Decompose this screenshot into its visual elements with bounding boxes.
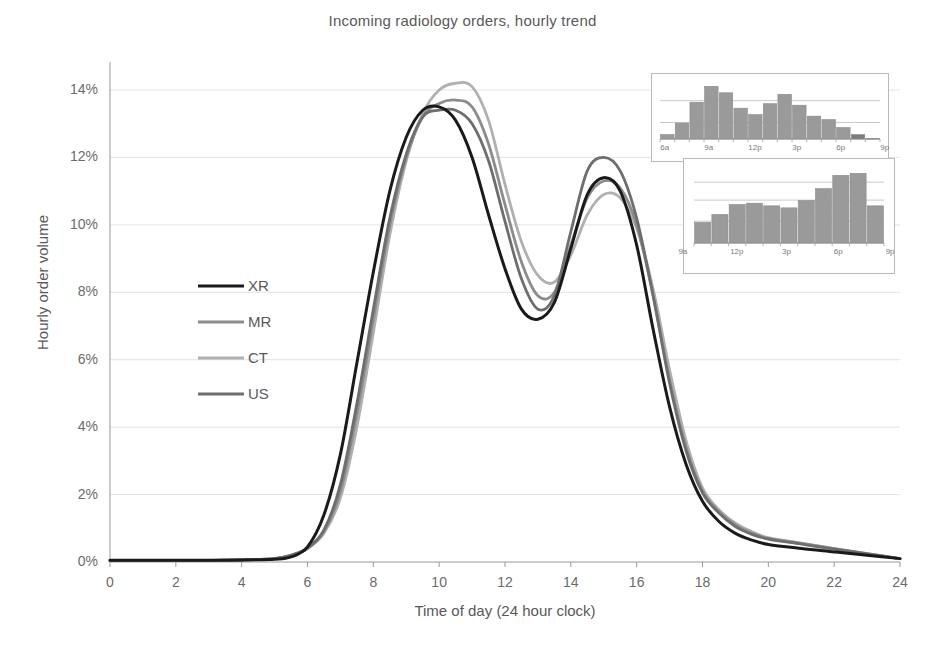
inset-bar <box>705 86 718 139</box>
inset-bar <box>749 115 762 139</box>
inset-morning-bars: 6a9a12p3p6p9p <box>651 73 889 162</box>
x-tick-label: 20 <box>748 574 788 590</box>
inset-bar <box>781 208 797 243</box>
legend-label-us: US <box>248 385 269 402</box>
y-tick-label: 10% <box>32 216 98 232</box>
inset-bar <box>719 93 732 139</box>
inset-bar <box>729 205 745 243</box>
inset-bar <box>695 222 711 243</box>
legend-label-xr: XR <box>248 277 269 294</box>
inset-bar <box>734 108 747 139</box>
inset-bar <box>866 139 879 140</box>
x-tick-label: 22 <box>814 574 854 590</box>
legend-label-mr: MR <box>248 313 271 330</box>
inset-tick-label: 6p <box>836 143 845 152</box>
inset-afternoon-bars: 9a12p3p6p9p <box>683 158 895 274</box>
x-tick-label: 10 <box>419 574 459 590</box>
inset-bar <box>690 102 703 139</box>
inset-bar <box>833 175 849 243</box>
inset-tick-label: 6a <box>660 143 669 152</box>
inset-bar <box>816 189 832 243</box>
inset-tick-label: 3p <box>792 143 801 152</box>
inset-morning-bars-plot <box>652 74 888 161</box>
x-tick-label: 16 <box>617 574 657 590</box>
y-tick-label: 2% <box>32 486 98 502</box>
x-tick-label: 6 <box>288 574 328 590</box>
inset-tick-label: 12p <box>748 143 761 152</box>
inset-bar <box>867 206 883 243</box>
y-tick-label: 14% <box>32 81 98 97</box>
x-tick-label: 2 <box>156 574 196 590</box>
y-tick-label: 0% <box>32 553 98 569</box>
x-tick-label: 18 <box>683 574 723 590</box>
y-tick-label: 8% <box>32 283 98 299</box>
inset-bar <box>822 120 835 139</box>
inset-tick-label: 3p <box>782 247 791 256</box>
inset-bar <box>764 206 780 243</box>
x-tick-label: 24 <box>880 574 920 590</box>
x-tick-label: 4 <box>222 574 262 590</box>
inset-tick-label: 9a <box>704 143 713 152</box>
inset-tick-label: 9p <box>880 143 889 152</box>
inset-tick-label: 9a <box>678 247 687 256</box>
inset-bar <box>763 104 776 139</box>
inset-tick-label: 12p <box>730 247 743 256</box>
x-tick-label: 14 <box>551 574 591 590</box>
inset-bar <box>850 173 866 243</box>
inset-bar <box>661 135 674 139</box>
legend-label-ct: CT <box>248 349 268 366</box>
inset-bar <box>746 203 762 243</box>
inset-bar <box>851 135 864 139</box>
inset-bar <box>712 214 728 243</box>
x-tick-label: 12 <box>485 574 525 590</box>
inset-bar <box>837 128 850 139</box>
x-tick-label: 0 <box>90 574 130 590</box>
inset-tick-label: 6p <box>834 247 843 256</box>
inset-bar <box>798 201 814 243</box>
y-tick-label: 4% <box>32 418 98 434</box>
x-tick-label: 8 <box>353 574 393 590</box>
inset-bar <box>778 94 791 139</box>
inset-bar <box>793 105 806 139</box>
chart-container: Incoming radiology orders, hourly trend … <box>0 0 925 651</box>
inset-bar <box>675 123 688 139</box>
y-tick-label: 6% <box>32 351 98 367</box>
inset-tick-label: 9p <box>886 247 895 256</box>
y-tick-label: 12% <box>32 148 98 164</box>
inset-bar <box>807 116 820 139</box>
